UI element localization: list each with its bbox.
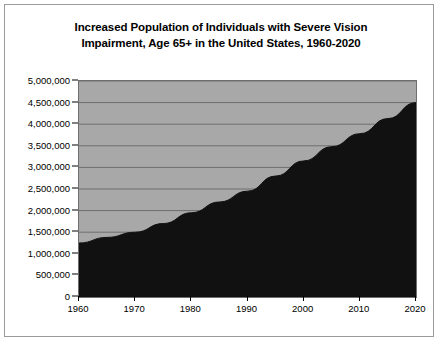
x-axis-tick-label: 2020 <box>385 303 442 314</box>
x-axis-tick-label: 1990 <box>217 303 277 314</box>
x-axis-tick-mark <box>247 296 248 301</box>
x-axis-tick-mark <box>415 296 416 301</box>
x-axis-tick-mark <box>134 296 135 301</box>
x-axis-tick-mark <box>190 296 191 301</box>
x-axis-tick-mark <box>78 296 79 301</box>
x-axis-tick-mark <box>303 296 304 301</box>
x-axis-tick-label: 1980 <box>160 303 220 314</box>
x-axis-tick-label: 2000 <box>273 303 333 314</box>
x-axis-tick-label: 2010 <box>329 303 389 314</box>
x-axis: 1960197019801990200020102020 <box>0 0 442 343</box>
x-axis-tick-mark <box>359 296 360 301</box>
x-axis-tick-label: 1960 <box>48 303 108 314</box>
x-axis-tick-label: 1970 <box>104 303 164 314</box>
